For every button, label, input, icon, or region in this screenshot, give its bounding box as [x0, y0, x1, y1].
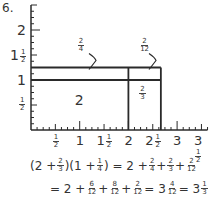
eq2-plus: +	[98, 182, 108, 196]
x-label: 212	[145, 133, 162, 149]
eq2-frac-1-3: 13	[201, 181, 207, 196]
x-label: 12	[52, 133, 60, 149]
x-label: 3	[173, 133, 181, 148]
eq2-frac-2-12: 212	[132, 181, 143, 196]
y-label: 12	[18, 97, 26, 112]
area-model-diagram	[0, 0, 209, 150]
eq2-frac-6-12: 612	[86, 181, 97, 196]
eq1-frac-2-3: 23	[57, 158, 63, 173]
equation-line-2: = 2 + 612 + 812 + 212 = 3 412 = 3 13	[50, 181, 209, 196]
y-label: 1	[17, 72, 26, 88]
eq2-plus2: +	[121, 182, 131, 196]
x-label: 112	[97, 133, 114, 149]
y-label: 112	[10, 47, 27, 64]
y-label: 2	[17, 22, 26, 38]
eq1-frac-2-4: 24	[149, 158, 155, 173]
x-label: 2	[124, 133, 132, 148]
eq1-plus2: +	[175, 159, 185, 173]
equation-line-1: (2 + 23 )(1 + 14 ) = 2 + 24 + 23 + 212	[30, 158, 198, 173]
region-label-top: 24	[77, 38, 85, 53]
eq1-lhs: (2 +	[30, 159, 56, 173]
eq1-frac-1-4: 14	[97, 158, 103, 173]
eq1-end: ) = 2 +	[104, 159, 148, 173]
eq1-frac-2-3b: 23	[167, 158, 173, 173]
region-label-right: 23	[138, 86, 146, 101]
eq1-mid: )(1 +	[65, 159, 96, 173]
eq2-frac-4-12: 412	[167, 181, 178, 196]
eq2-frac-8-12: 812	[109, 181, 120, 196]
eq1-plus: +	[156, 159, 166, 173]
eq1-frac-2-12: 212	[186, 158, 197, 173]
eq2-eq1: = 3	[144, 182, 166, 196]
region-label-main: 2	[75, 92, 84, 108]
eq2-eq2: = 3	[179, 182, 201, 196]
eq2-start: = 2 +	[50, 182, 85, 196]
x-label: 1	[76, 133, 84, 148]
region-label-corner: 212	[138, 38, 151, 53]
